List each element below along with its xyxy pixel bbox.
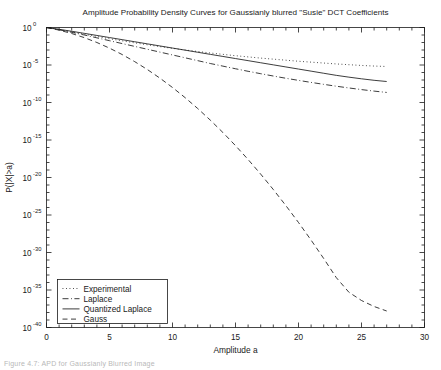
amplitude-probability-density-chart: Amplitude Probability Density Curves for… bbox=[0, 0, 441, 370]
x-axis-tick-label: 25 bbox=[357, 333, 367, 342]
y-axis-tick-label: 10-15 bbox=[22, 133, 41, 145]
y-axis-tick-mantissa: 10 bbox=[22, 249, 32, 258]
figure-caption: Figure 4.7: APD for Gaussianly Blurred I… bbox=[0, 358, 441, 370]
y-axis-tick-mantissa: 10 bbox=[22, 61, 32, 70]
y-axis-tick-label: 10-30 bbox=[22, 246, 41, 258]
y-axis-tick-mantissa: 10 bbox=[22, 136, 32, 145]
y-axis-tick-label: 10-5 bbox=[22, 58, 38, 70]
x-axis-tick-label: 10 bbox=[168, 333, 178, 342]
y-axis-tick-label: 10-10 bbox=[22, 96, 41, 108]
y-axis-label: P(|X|>a) bbox=[4, 162, 14, 193]
y-axis-tick-mantissa: 10 bbox=[22, 24, 32, 33]
series-line-experimental bbox=[47, 28, 387, 67]
y-axis-tick-exponent: -30 bbox=[33, 246, 41, 252]
y-axis-tick-mantissa: 10 bbox=[22, 211, 32, 220]
series-line-quantized-laplace bbox=[47, 28, 387, 82]
curves-group bbox=[47, 28, 387, 312]
x-axis-tick-label: 20 bbox=[294, 333, 304, 342]
y-axis-tick-label: 10-35 bbox=[22, 283, 41, 295]
x-axis-tick-label: 30 bbox=[420, 333, 430, 342]
y-axis-tick-exponent: -5 bbox=[33, 58, 38, 64]
x-axis-tick-label: 5 bbox=[107, 333, 112, 342]
y-axis-tick-mantissa: 10 bbox=[22, 99, 32, 108]
y-axis-tick-label: 10-20 bbox=[22, 171, 41, 183]
y-axis-tick-exponent: -20 bbox=[33, 171, 41, 177]
y-axis-tick-label: 10-40 bbox=[22, 321, 41, 333]
y-axis-tick-exponent: -40 bbox=[33, 321, 41, 327]
y-axis-tick-exponent: -35 bbox=[33, 283, 41, 289]
y-axis-tick-exponent: -10 bbox=[33, 96, 41, 102]
x-axis-tick-label: 15 bbox=[231, 333, 241, 342]
legend-label-gauss: Gauss bbox=[84, 315, 108, 324]
x-axis-label: Amplitude a bbox=[213, 345, 258, 355]
x-axis-tick-label: 0 bbox=[44, 333, 49, 342]
legend-label-quantized-laplace: Quantized Laplace bbox=[84, 305, 153, 314]
y-axis-tick-mantissa: 10 bbox=[22, 174, 32, 183]
y-axis-tick-exponent: 0 bbox=[33, 21, 36, 27]
series-line-gauss bbox=[47, 28, 387, 312]
y-axis-tick-exponent: -15 bbox=[33, 133, 41, 139]
series-line-laplace bbox=[47, 28, 387, 93]
figure-panel: Amplitude Probability Density Curves for… bbox=[0, 0, 441, 370]
y-axis-tick-label: 10-25 bbox=[22, 208, 41, 220]
y-axis-tick-label: 100 bbox=[22, 21, 36, 33]
y-axis-tick-exponent: -25 bbox=[33, 208, 41, 214]
y-axis-tick-mantissa: 10 bbox=[22, 286, 32, 295]
legend-label-experimental: Experimental bbox=[84, 285, 132, 294]
chart-title: Amplitude Probability Density Curves for… bbox=[83, 8, 389, 17]
legend: ExperimentalLaplaceQuantized LaplaceGaus… bbox=[58, 280, 168, 325]
y-axis-tick-mantissa: 10 bbox=[22, 324, 32, 333]
legend-label-laplace: Laplace bbox=[84, 295, 113, 304]
